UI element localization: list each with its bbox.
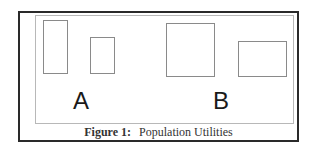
rect-b2: [238, 41, 287, 77]
caption-text: Population Utilities: [139, 125, 233, 139]
group-label-b: B: [213, 89, 229, 113]
rect-b1: [166, 23, 215, 77]
caption-label: Figure 1:: [84, 125, 131, 139]
figure-caption: Figure 1:Population Utilities: [18, 124, 299, 140]
rect-a2: [90, 37, 115, 74]
group-label-a: A: [73, 89, 89, 113]
rect-a1: [43, 20, 68, 74]
